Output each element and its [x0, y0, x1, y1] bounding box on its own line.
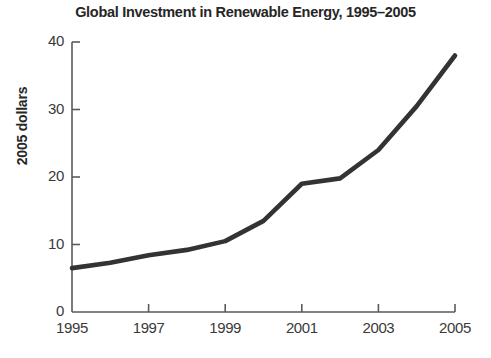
y-tick-label: 0 — [24, 302, 64, 319]
axes — [72, 42, 455, 312]
y-tick-label: 40 — [24, 32, 64, 49]
x-tick-label: 2003 — [348, 319, 408, 336]
plot-area — [0, 0, 491, 358]
chart-container: Global Investment in Renewable Energy, 1… — [0, 0, 491, 358]
data-series — [72, 56, 455, 269]
x-tick-label: 1999 — [195, 319, 255, 336]
x-tick-label: 1995 — [42, 319, 102, 336]
x-tick-label: 2001 — [272, 319, 332, 336]
x-tick-label: 2005 — [425, 319, 485, 336]
y-tick-label: 10 — [24, 235, 64, 252]
series-line — [72, 56, 455, 269]
y-tick-label: 30 — [24, 100, 64, 117]
y-tick-label: 20 — [24, 167, 64, 184]
x-tick-label: 1997 — [119, 319, 179, 336]
